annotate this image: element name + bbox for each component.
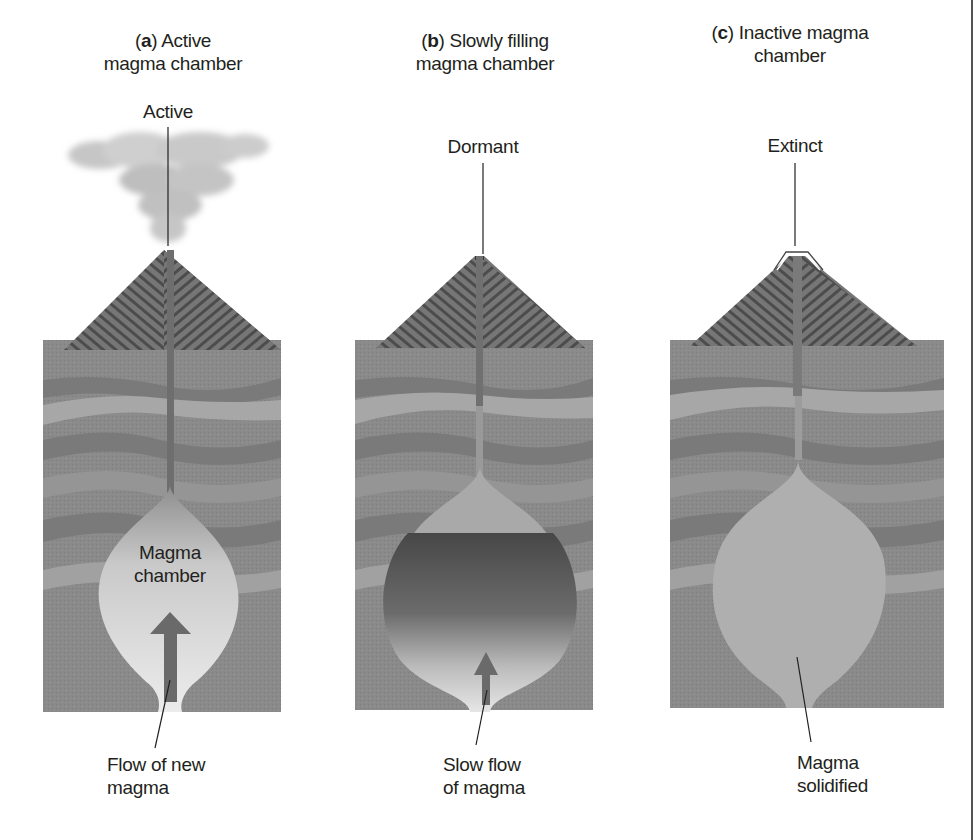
label-magma-solidified: Magma solidified — [797, 751, 947, 797]
panel-a-title-line2: magma chamber — [88, 52, 258, 75]
label-slow-flow-of-magma: Slow flow of magma — [443, 753, 593, 799]
page-edge-rule — [971, 0, 973, 840]
panel-b-title-line1: Slowly filling — [445, 30, 549, 51]
panel-a-active — [43, 127, 281, 748]
label-solid-line2: solidified — [797, 774, 947, 797]
magma-chamber-label-line2: chamber — [110, 564, 230, 587]
label-flow-line1: Flow of new — [107, 753, 257, 776]
panel-c-letter: c — [717, 22, 727, 43]
state-label-dormant: Dormant — [433, 135, 533, 158]
panel-a-letter: a — [141, 30, 151, 51]
panel-b-letter: b — [427, 30, 438, 51]
label-solid-line1: Magma — [797, 751, 947, 774]
panel-b-title-line2: magma chamber — [400, 52, 570, 75]
panel-c-title-line2: chamber — [700, 44, 880, 67]
state-label-extinct: Extinct — [745, 134, 845, 157]
label-flow-of-new-magma: Flow of new magma — [107, 753, 257, 799]
state-label-active: Active — [118, 100, 218, 123]
panel-c-title: (c) Inactive magma chamber — [700, 21, 880, 67]
label-flow-line2: magma — [107, 776, 257, 799]
panel-a-title: (a) Active magma chamber — [88, 29, 258, 75]
panel-a-title-line1: Active — [157, 30, 211, 51]
panel-c-title-line1: Inactive magma — [734, 22, 869, 43]
magma-chamber-label: Magma chamber — [110, 541, 230, 587]
volcano-diagram: (a) Active magma chamber (b) Slowly fill… — [0, 0, 976, 840]
magma-chamber-label-line1: Magma — [110, 541, 230, 564]
label-slow-line1: Slow flow — [443, 753, 593, 776]
panel-b-title: (b) Slowly filling magma chamber — [400, 29, 570, 75]
panel-b-dormant — [355, 163, 593, 745]
label-slow-line2: of magma — [443, 776, 593, 799]
panel-c-extinct — [670, 163, 944, 742]
